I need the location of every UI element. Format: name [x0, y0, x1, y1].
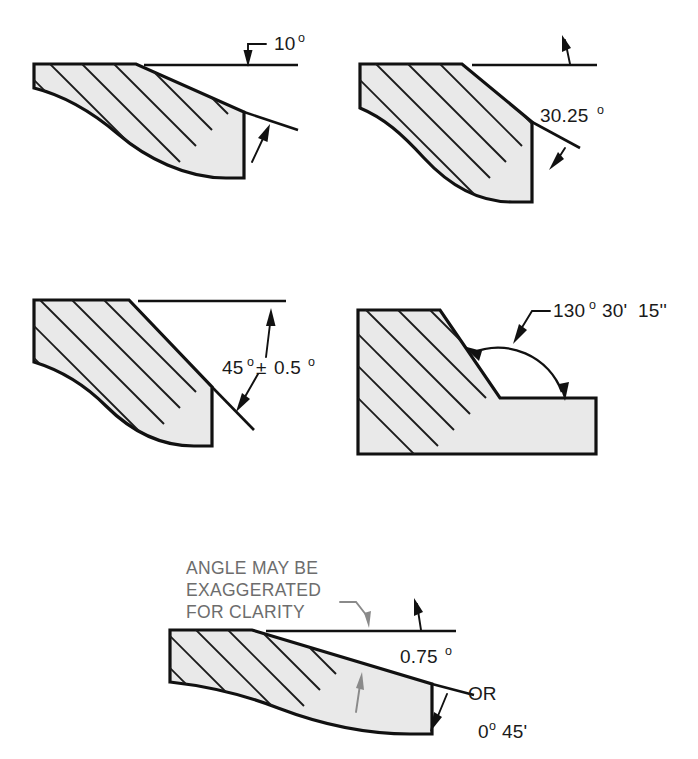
dimension-value-10: 10 [274, 33, 296, 54]
alternative-degrees: 0 [478, 721, 489, 742]
upper-arrowhead-up [266, 308, 276, 326]
figure-45-degrees-svg: 45 o ± 0.5 o [26, 282, 346, 457]
degree-symbol-10: o [298, 31, 305, 45]
alternative-degree-symbol: o [489, 719, 496, 733]
note-line-1: ANGLE MAY BE [186, 560, 318, 578]
note-line-3: FOR CLARITY [186, 602, 305, 622]
note-leader-line [340, 602, 367, 616]
degree-symbol-45: o [247, 355, 254, 369]
degree-symbol-30-25: o [597, 103, 604, 117]
drawing-sheet: 10 o [0, 0, 698, 759]
figure-075-degrees: ANGLE MAY BE EXAGGERATED FOR CLARITY 0.7… [160, 560, 560, 756]
chamfer-extension-line [244, 112, 298, 130]
alternative-connector: OR [468, 683, 497, 704]
dimension-value-075: 0.75 [400, 646, 438, 667]
figure-45-degrees-tolerance: 45 o ± 0.5 o [26, 282, 346, 457]
alternative-minutes: 45' [502, 721, 527, 742]
dimension-minutes: 30' [602, 300, 627, 321]
figure-10-degrees: 10 o [26, 26, 336, 216]
degree-symbol-tolerance: o [308, 355, 315, 369]
lower-arrowhead-down [236, 393, 250, 412]
figure-30-25-degrees: 30.25 o [352, 26, 672, 216]
leader-arrowhead [513, 324, 527, 344]
dimension-value-130: 130 [553, 300, 585, 321]
dimension-value-45: 45 [222, 357, 244, 378]
dimension-seconds: 15'' [638, 300, 667, 321]
figure-10-degrees-svg: 10 o [26, 26, 336, 216]
upper-angle-leader [266, 324, 270, 357]
degree-symbol-130: o [589, 298, 596, 312]
note-line-2: EXAGGERATED [186, 580, 321, 600]
dimension-value-30-25: 30.25 [540, 105, 589, 126]
note-leader-arrowhead [364, 611, 371, 628]
upper-arrowhead [562, 35, 571, 52]
tolerance-value: 0.5 [274, 357, 301, 378]
tolerance-symbol: ± [256, 357, 267, 378]
figure-075-degrees-svg: ANGLE MAY BE EXAGGERATED FOR CLARITY 0.7… [160, 560, 560, 756]
figure-130-degrees-svg: 130 o 30' 15'' [352, 282, 682, 457]
angle-arrowhead-up [258, 124, 270, 142]
upper-arrowhead-down [414, 598, 423, 616]
part-body-outline [170, 630, 432, 734]
figure-30-25-degrees-svg: 30.25 o [352, 26, 672, 216]
figure-130-degrees-arc: 130 o 30' 15'' [352, 282, 682, 457]
degree-symbol-075: o [445, 644, 452, 658]
